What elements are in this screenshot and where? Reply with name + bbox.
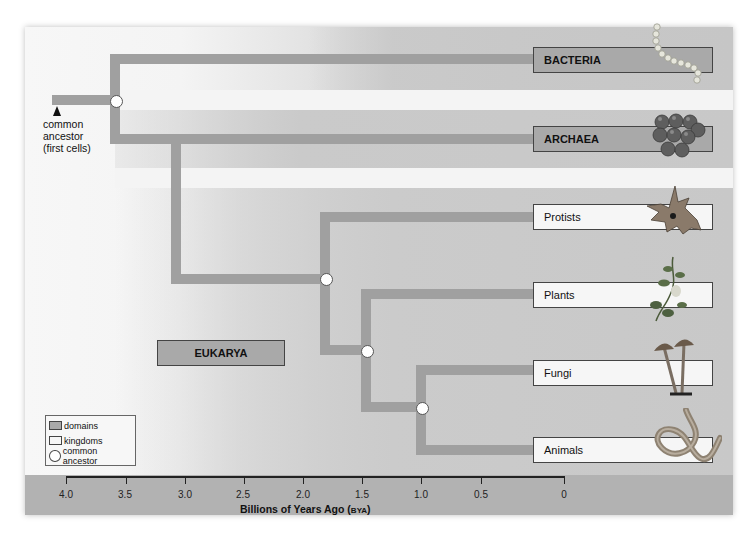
kingdom-label: Protists: [544, 211, 581, 223]
axis-tick-label: 1.5: [355, 489, 369, 500]
fungi-branch: [416, 365, 534, 375]
axis-tick: [362, 476, 363, 484]
node-fungi-animals: [416, 402, 429, 415]
plants-branch: [361, 289, 534, 299]
axis-tick-label: 2.0: [296, 489, 310, 500]
legend-label: domains: [64, 421, 98, 431]
band-gap: [115, 90, 733, 110]
axis-tick: [564, 476, 565, 484]
worm-icon: [650, 408, 722, 478]
axis-tick-label: 3.5: [118, 489, 132, 500]
axis-tick: [244, 476, 245, 484]
archaea-cluster-icon: [652, 113, 708, 163]
protist-icon: [645, 186, 703, 241]
legend: domains kingdoms common ancestor: [45, 415, 136, 466]
band-gap: [115, 168, 733, 188]
root-label: common ancestor (first cells): [43, 118, 91, 154]
node-plants: [361, 345, 374, 358]
arrow-up-icon: [53, 106, 61, 116]
domain-label: BACTERIA: [544, 54, 601, 66]
legend-label: kingdoms: [64, 436, 103, 446]
axis-tick-label: 1.0: [414, 489, 428, 500]
root-branch: [52, 95, 116, 105]
axis-title-abbrev: BYA: [351, 506, 367, 515]
domain-box-eukarya: EUKARYA: [157, 340, 285, 366]
protist-branch: [320, 212, 534, 222]
axis-tick: [66, 476, 67, 484]
time-axis-line: [66, 476, 565, 478]
axis-tick-label: 0.5: [474, 489, 488, 500]
fungi-animals-stem: [361, 402, 423, 412]
axis-title: Billions of Years Ago (BYA): [240, 503, 371, 515]
animals-branch: [416, 445, 534, 455]
axis-tick: [185, 476, 186, 484]
kingdom-label: Fungi: [544, 367, 572, 379]
domain-label: ARCHAEA: [544, 133, 599, 145]
legend-item-common-ancestor: common ancestor: [49, 448, 132, 463]
mushroom-icon: [650, 337, 700, 399]
kingdom-label: Plants: [544, 289, 575, 301]
node-root: [110, 95, 123, 108]
legend-item-domains: domains: [49, 418, 132, 433]
root-label-line: ancestor: [43, 130, 91, 142]
axis-tick-label: 2.5: [236, 489, 250, 500]
circle-node-icon: [49, 450, 61, 462]
axis-tick-label: 0: [561, 489, 567, 500]
root-label-line: (first cells): [43, 142, 91, 154]
eukarya-stem: [171, 274, 326, 284]
axis-tick: [303, 476, 304, 484]
plant-icon: [648, 255, 698, 325]
bacteria-chain-icon: [650, 22, 710, 87]
axis-title-main: Billions of Years Ago (: [240, 503, 351, 515]
kingdom-swatch-icon: [49, 436, 62, 445]
axis-tick: [481, 476, 482, 484]
domain-swatch-icon: [49, 421, 62, 430]
axis-tick-label: 3.0: [178, 489, 192, 500]
axis-tick: [421, 476, 422, 484]
axis-title-end: ): [367, 503, 371, 515]
axis-tick: [126, 476, 127, 484]
legend-label: common ancestor: [63, 446, 132, 466]
node-eukarya: [320, 273, 333, 286]
domain-label: EUKARYA: [195, 347, 248, 359]
kingdom-label: Animals: [544, 444, 583, 456]
bacteria-branch: [110, 54, 534, 64]
root-label-line: common: [43, 118, 91, 130]
eukarya-vertical: [171, 134, 181, 284]
axis-tick-label: 4.0: [59, 489, 73, 500]
